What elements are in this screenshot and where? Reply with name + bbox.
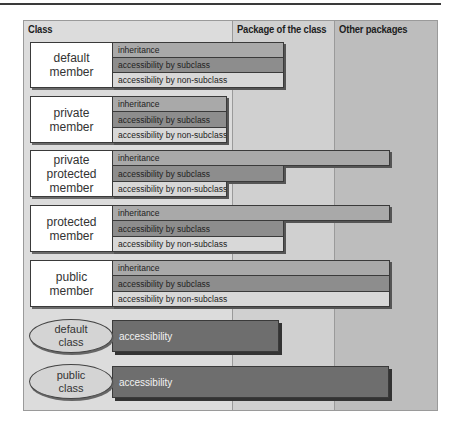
default-class-label: default class (29, 319, 113, 353)
column-header-class: Class (28, 23, 52, 35)
protected-member-inheritance: inheritance (112, 205, 390, 221)
default-member-non-subclass: accessibility by non-subclass (112, 72, 284, 88)
public-class-label: public class (29, 364, 113, 399)
public-member-block: public member inheritance accessibility … (30, 260, 430, 307)
public-member-subclass: accessibility by subclass (112, 275, 390, 292)
private-member-label: private member (30, 96, 113, 143)
default-member-label: default member (30, 42, 113, 88)
private-protected-member-subclass: accessibility by subclass (112, 165, 284, 182)
private-protected-member-label: private protected member (30, 150, 113, 197)
private-member-block: private member inheritance accessibility… (30, 96, 430, 143)
public-member-inheritance: inheritance (112, 260, 390, 276)
column-header-package: Package of the class (237, 23, 326, 35)
access-diagram: Class Package of the class Other package… (23, 20, 438, 411)
public-class-block: accessibility public class (29, 363, 429, 401)
default-member-inheritance: inheritance (112, 42, 284, 58)
protected-member-non-subclass: accessibility by non-subclass (112, 236, 284, 252)
default-member-subclass: accessibility by subclass (112, 57, 284, 73)
protected-member-label: protected member (30, 205, 113, 252)
default-class-accessibility: accessibility (112, 320, 279, 352)
top-rule (0, 3, 441, 5)
private-member-subclass: accessibility by subclass (112, 111, 227, 128)
private-member-non-subclass: accessibility by non-subclass (112, 127, 227, 143)
private-member-inheritance: inheritance (112, 96, 227, 112)
public-class-accessibility: accessibility (112, 366, 389, 398)
private-protected-member-block: private protected member inheritance acc… (30, 150, 430, 197)
protected-member-block: protected member inheritance accessibili… (30, 205, 430, 252)
column-header-other-packages: Other packages (339, 23, 407, 35)
private-protected-member-inheritance: inheritance (112, 150, 390, 166)
default-class-block: accessibility default class (29, 318, 429, 354)
protected-member-subclass: accessibility by subclass (112, 220, 284, 237)
private-protected-member-non-subclass: accessibility by non-subclass (112, 181, 227, 197)
public-member-label: public member (30, 260, 113, 307)
default-member-block: default member inheritance accessibility… (30, 42, 430, 88)
public-member-non-subclass: accessibility by non-subclass (112, 291, 390, 307)
